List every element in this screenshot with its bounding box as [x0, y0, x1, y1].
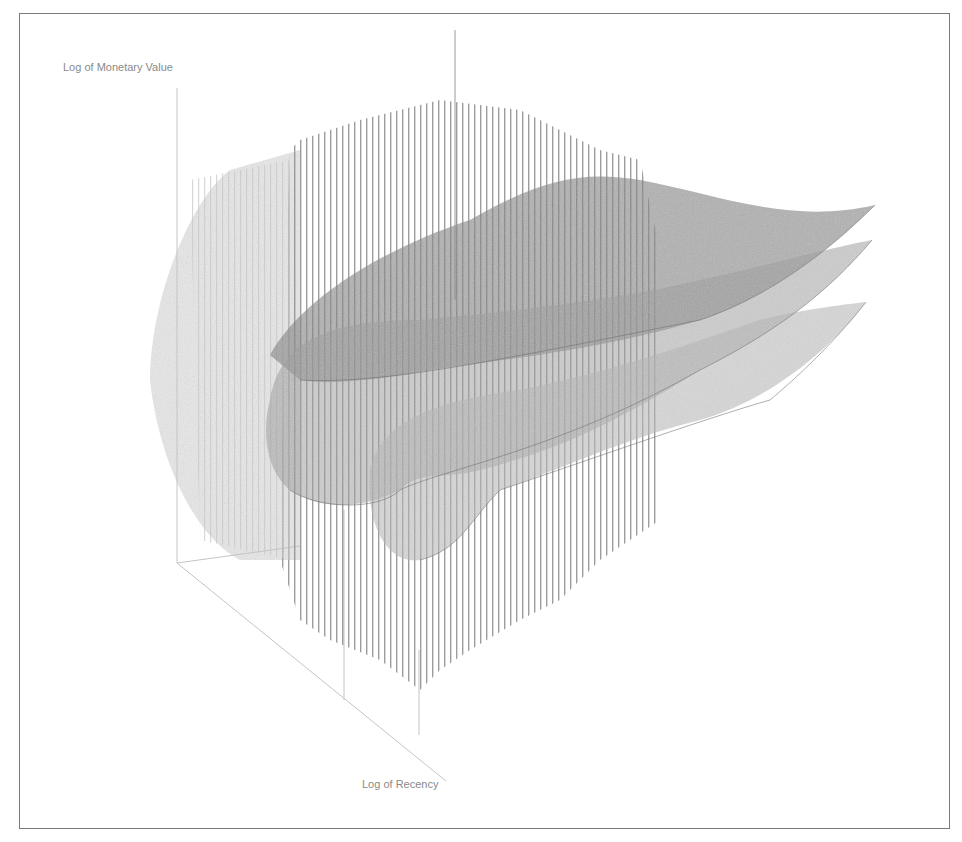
z-axis-label: Log of Monetary Value [63, 61, 173, 73]
3d-surface-plot[interactable] [0, 0, 962, 842]
x-axis-label: Log of Recency [362, 778, 438, 790]
